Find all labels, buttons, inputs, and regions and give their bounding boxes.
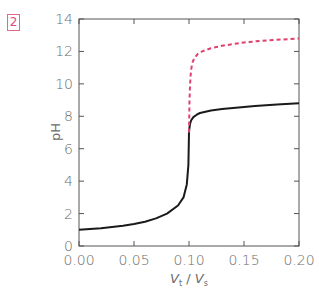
y-tick-label: 4: [64, 173, 73, 189]
x-tick-label: 0.20: [283, 252, 314, 268]
y-tick-label: 8: [64, 108, 73, 124]
y-tick-label: 14: [55, 11, 73, 27]
x-tick-label: 0.00: [63, 252, 94, 268]
x-tick-label: 0.05: [118, 252, 149, 268]
x-tick-label: 0.10: [173, 252, 204, 268]
titration-chart: 0.000.050.100.150.2002468101214pHVt / Vs: [0, 0, 319, 291]
y-tick-label: 6: [64, 141, 73, 157]
y-tick-label: 12: [55, 43, 73, 59]
dashed-red-curve: [189, 39, 299, 133]
x-axis-label: Vt / Vs: [170, 271, 208, 288]
plot-lines: [79, 39, 299, 230]
y-axis-label: pH: [48, 123, 63, 141]
x-tick-label: 0.15: [228, 252, 259, 268]
y-tick-label: 2: [64, 206, 73, 222]
y-tick-label: 0: [64, 238, 73, 254]
y-tick-label: 10: [55, 76, 73, 92]
